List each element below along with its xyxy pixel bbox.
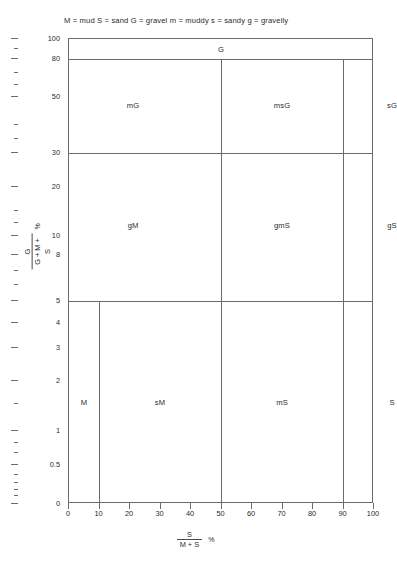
y-tick-80 bbox=[11, 58, 18, 59]
field-label-G: G bbox=[218, 45, 224, 54]
y-tick-3 bbox=[11, 347, 18, 348]
x-axis-label-90: 90 bbox=[338, 509, 346, 518]
x-axis-label-80: 80 bbox=[308, 509, 316, 518]
y-tick-minor bbox=[14, 482, 18, 483]
y-axis-label-100: 100 bbox=[22, 34, 60, 43]
y-axis-label-20: 20 bbox=[22, 182, 60, 191]
field-label-sM: sM bbox=[155, 398, 165, 407]
y-axis-numerator: G bbox=[23, 234, 32, 270]
y-tick-minor bbox=[14, 474, 18, 475]
field-label-mS: mS bbox=[276, 398, 288, 407]
y-tick-minor bbox=[14, 489, 18, 490]
x-axis-label-50: 50 bbox=[216, 509, 224, 518]
y-tick-minor bbox=[14, 222, 18, 223]
y-tick-minor bbox=[14, 284, 18, 285]
boundary-line-x10 bbox=[99, 301, 100, 504]
y-tick-50 bbox=[11, 96, 18, 97]
field-label-gM: gM bbox=[128, 221, 139, 230]
x-axis-label-10: 10 bbox=[94, 509, 102, 518]
x-axis-fraction: S M + S bbox=[177, 530, 203, 550]
y-axis-fraction: G G + M + S bbox=[23, 234, 52, 270]
y-axis-label-0.5: 0.5 bbox=[22, 460, 60, 469]
y-tick-minor bbox=[14, 495, 18, 496]
classification-key: M = mud S = sand G = gravel m = muddy s … bbox=[64, 16, 288, 25]
boundary-line-x90 bbox=[343, 59, 344, 504]
y-tick-8 bbox=[11, 254, 18, 255]
y-tick-20 bbox=[11, 186, 18, 187]
y-axis-title: G G + M + S % bbox=[23, 223, 52, 269]
field-label-msG: msG bbox=[274, 101, 290, 110]
field-label-gS: gS bbox=[387, 221, 397, 230]
y-axis-label-4: 4 bbox=[22, 318, 60, 327]
y-tick-1 bbox=[11, 430, 18, 431]
field-label-M: M bbox=[81, 398, 87, 407]
y-tick-30 bbox=[11, 152, 18, 153]
y-axis-label-30: 30 bbox=[22, 148, 60, 157]
y-tick-0 bbox=[11, 503, 18, 504]
y-tick-minor bbox=[14, 442, 18, 443]
y-tick-5 bbox=[11, 300, 18, 301]
y-axis-percent-symbol: % bbox=[34, 223, 41, 229]
y-axis-label-0: 0 bbox=[22, 499, 60, 508]
x-axis-numerator: S bbox=[177, 530, 203, 539]
x-axis-label-40: 40 bbox=[186, 509, 194, 518]
y-tick-minor bbox=[14, 124, 18, 125]
y-tick-minor bbox=[14, 84, 18, 85]
classification-diagram: G mG msG sG gM gmS gS M sM mS S bbox=[68, 38, 373, 503]
boundary-line-x50 bbox=[221, 59, 222, 504]
y-axis-label-1: 1 bbox=[22, 426, 60, 435]
y-axis-label-50: 50 bbox=[22, 92, 60, 101]
x-axis-label-20: 20 bbox=[125, 509, 133, 518]
y-axis-label-5: 5 bbox=[22, 296, 60, 305]
y-axis-label-2: 2 bbox=[22, 376, 60, 385]
field-label-S: S bbox=[389, 398, 394, 407]
x-axis-denominator: M + S bbox=[177, 539, 203, 549]
x-axis-label-0: 0 bbox=[66, 509, 70, 518]
field-label-sG: sG bbox=[387, 101, 397, 110]
x-axis-percent-symbol: % bbox=[208, 536, 214, 543]
x-axis-label-30: 30 bbox=[155, 509, 163, 518]
y-tick-minor bbox=[14, 403, 18, 404]
y-tick-10 bbox=[11, 235, 18, 236]
x-axis-label-60: 60 bbox=[247, 509, 255, 518]
y-tick-minor bbox=[14, 72, 18, 73]
y-tick-2 bbox=[11, 380, 18, 381]
field-label-mG: mG bbox=[127, 101, 139, 110]
y-axis-denominator: G + M + S bbox=[32, 234, 52, 270]
y-tick-minor bbox=[14, 48, 18, 49]
y-tick-minor bbox=[14, 210, 18, 211]
y-axis-label-3: 3 bbox=[22, 343, 60, 352]
x-axis-label-100: 100 bbox=[367, 509, 379, 518]
y-axis-label-80: 80 bbox=[22, 54, 60, 63]
x-axis-label-70: 70 bbox=[277, 509, 285, 518]
y-tick-minor bbox=[14, 138, 18, 139]
y-tick-4 bbox=[11, 322, 18, 323]
y-tick-minor bbox=[14, 452, 18, 453]
y-tick-minor bbox=[14, 270, 18, 271]
y-tick-0.5 bbox=[11, 464, 18, 465]
field-label-gmS: gmS bbox=[274, 221, 290, 230]
x-axis-title: S M + S % bbox=[0, 530, 391, 550]
y-tick-100 bbox=[11, 38, 18, 39]
